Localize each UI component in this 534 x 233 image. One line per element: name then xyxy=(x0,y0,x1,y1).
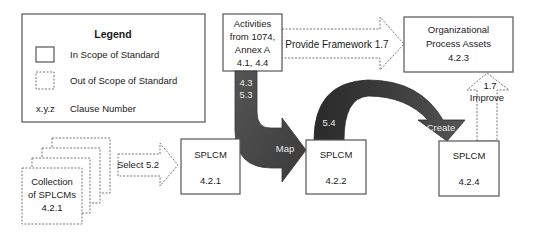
splcm-424-node: SPLCM 4.2.4 xyxy=(439,141,499,196)
create-clause: 5.4 xyxy=(322,117,335,128)
provide-framework-arrow: Provide Framework 1.7 xyxy=(282,17,404,70)
legend-solid-box-icon xyxy=(36,47,54,62)
splcm-process-diagram: Legend In Scope of Standard Out of Scope… xyxy=(0,0,534,233)
improve-clause: 1.7 xyxy=(483,80,496,91)
select-label: Select 5.2 xyxy=(117,159,159,170)
org-process-assets-node: Organizational Process Assets 4.2.3 xyxy=(404,17,513,72)
org-assets-line-1: Organizational xyxy=(428,24,489,35)
provide-framework-label: Provide Framework 1.7 xyxy=(285,39,389,50)
splcm-421-clause: 4.2.1 xyxy=(200,175,221,186)
legend-clause-symbol: x.y.z xyxy=(36,103,55,114)
legend-label-out-of-scope: Out of Scope of Standard xyxy=(70,75,177,86)
legend-label-in-scope: In Scope of Standard xyxy=(70,49,159,60)
collection-node: Collection of SPLCMs 4.2.1 xyxy=(22,138,110,224)
improve-arrow: 1.7 Improve xyxy=(467,73,509,141)
improve-label: Improve xyxy=(470,92,504,103)
map-clause-2: 5.3 xyxy=(239,89,252,100)
collection-line-3: 4.2.1 xyxy=(41,202,62,213)
create-label: Create xyxy=(427,122,456,133)
collection-line-2: of SPLCMs xyxy=(28,189,76,200)
splcm-421-node: SPLCM 4.2.1 xyxy=(181,139,240,194)
activities-line-2: from 1074, xyxy=(230,31,275,42)
splcm-424-title: SPLCM xyxy=(453,150,486,161)
splcm-422-clause: 4.2.2 xyxy=(325,175,346,186)
splcm-422-title: SPLCM xyxy=(320,149,353,160)
org-assets-line-2: Process Assets xyxy=(426,38,491,49)
legend: Legend In Scope of Standard Out of Scope… xyxy=(22,14,205,122)
create-arrow: 5.4 Create xyxy=(314,80,465,141)
org-assets-line-3: 4.2.3 xyxy=(448,52,469,63)
splcm-422-node: SPLCM 4.2.2 xyxy=(306,140,366,194)
splcm-421-title: SPLCM xyxy=(194,149,227,160)
map-arrow: 4.3 5.3 Map xyxy=(235,71,306,182)
splcm-424-clause: 4.2.4 xyxy=(458,176,479,187)
legend-title: Legend xyxy=(94,28,131,40)
select-arrow: Select 5.2 xyxy=(117,143,178,186)
activities-node: Activities from 1074, Annex A 4.1, 4.4 xyxy=(223,14,282,71)
map-clause-1: 4.3 xyxy=(239,77,252,88)
collection-line-1: Collection xyxy=(31,176,73,187)
activities-line-4: 4.1, 4.4 xyxy=(237,57,269,68)
legend-dashed-box-icon xyxy=(36,72,54,89)
legend-label-clause: Clause Number xyxy=(70,103,136,114)
map-label: Map xyxy=(276,143,294,154)
activities-line-1: Activities xyxy=(234,18,272,29)
activities-line-3: Annex A xyxy=(235,44,271,55)
